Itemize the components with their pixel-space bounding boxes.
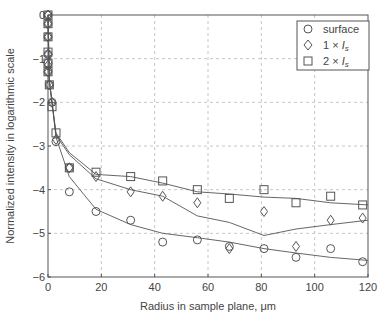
chart: 020406080100120 0−1−2−3−4−5−6 Radius in … [0,0,389,316]
square-marker [225,194,233,202]
legend-label-surface: surface [323,23,359,35]
x-tick-label: 20 [95,281,107,293]
circle-marker [359,258,367,266]
x-tick-label: 40 [149,281,161,293]
y-tick-label: −6 [32,271,45,283]
y-tick-label: −1 [32,53,45,65]
y-tick-label: −4 [32,184,45,196]
x-tick-label: 80 [255,281,267,293]
y-tick-label: −2 [32,96,45,108]
diamond-marker [293,241,300,251]
y-tick-label: −5 [32,227,45,239]
x-axis-label: Radius in sample plane, μm [140,300,276,312]
circle-marker [159,238,167,246]
x-tick-label: 60 [202,281,214,293]
x-tick-label: 100 [305,281,323,293]
circle-marker [127,216,135,224]
diamond-marker [194,198,201,208]
legend: surface 1 × Is 2 × Is [297,21,369,70]
y-tick-label: 0 [39,9,45,21]
square-marker [292,199,300,207]
square-marker [327,192,335,200]
diamond-marker [327,215,334,225]
circle-marker [292,253,300,261]
circle-marker [65,188,73,196]
diamond-marker [127,187,134,197]
y-tick-label: −3 [32,140,45,152]
x-tick-label: 120 [359,281,377,293]
y-axis-label: Normalized intensity in logarithmic scal… [4,48,16,244]
circle-marker [193,236,201,244]
x-tick-label: 0 [45,281,51,293]
circle-marker [327,245,335,253]
diamond-marker [226,244,233,254]
